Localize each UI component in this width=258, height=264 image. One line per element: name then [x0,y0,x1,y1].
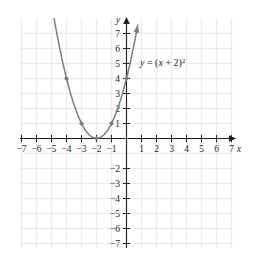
x-tick-label: −6 [31,144,41,154]
x-tick-label: 3 [169,144,174,154]
x-tick-label: 5 [199,144,204,154]
x-tick-label: −3 [76,144,86,154]
graph-figure: −7−6−5−4−3−2−112345677654321−2−3−4−5−6−7… [0,0,258,264]
x-tick-label: −5 [46,144,56,154]
x-tick-label: 1 [139,144,144,154]
equation-annotation: y = (x + 2)2 [139,57,186,69]
x-tick-label: 7 [229,144,234,154]
x-tick-label: 2 [154,144,159,154]
x-tick-label: −7 [16,144,26,154]
y-tick-label: 6 [115,44,120,54]
x-tick-label: −2 [91,144,101,154]
y-tick-label: −4 [110,194,120,204]
x-tick-label: 6 [214,144,219,154]
y-tick-label: −5 [110,209,120,219]
y-tick-label: 3 [115,89,120,99]
y-tick-label: −6 [110,224,120,234]
coordinate-plane: −7−6−5−4−3−2−112345677654321−2−3−4−5−6−7… [0,0,258,264]
x-tick-label: −1 [106,144,116,154]
y-tick-label: 5 [115,59,120,69]
x-tick-label: 4 [184,144,189,154]
x-tick-label: −4 [61,144,71,154]
y-tick-label: 1 [115,119,120,129]
y-tick-label: −3 [110,179,120,189]
y-tick-label: 7 [115,29,120,39]
y-tick-label: −2 [110,164,120,174]
y-axis-label: y [115,14,121,25]
y-tick-label: −7 [110,239,120,249]
x-axis-label: x [236,143,242,154]
equation-exponent: 2 [182,57,186,64]
y-tick-label: 4 [115,74,120,84]
figure-background [0,0,258,264]
